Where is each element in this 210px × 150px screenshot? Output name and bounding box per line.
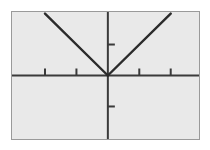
- coordinate-plane: [12, 12, 199, 139]
- curve-right-branch: [108, 14, 171, 76]
- curve-left-branch: [45, 14, 108, 76]
- graph-screenshot: [0, 0, 210, 150]
- plot-frame: [11, 11, 200, 140]
